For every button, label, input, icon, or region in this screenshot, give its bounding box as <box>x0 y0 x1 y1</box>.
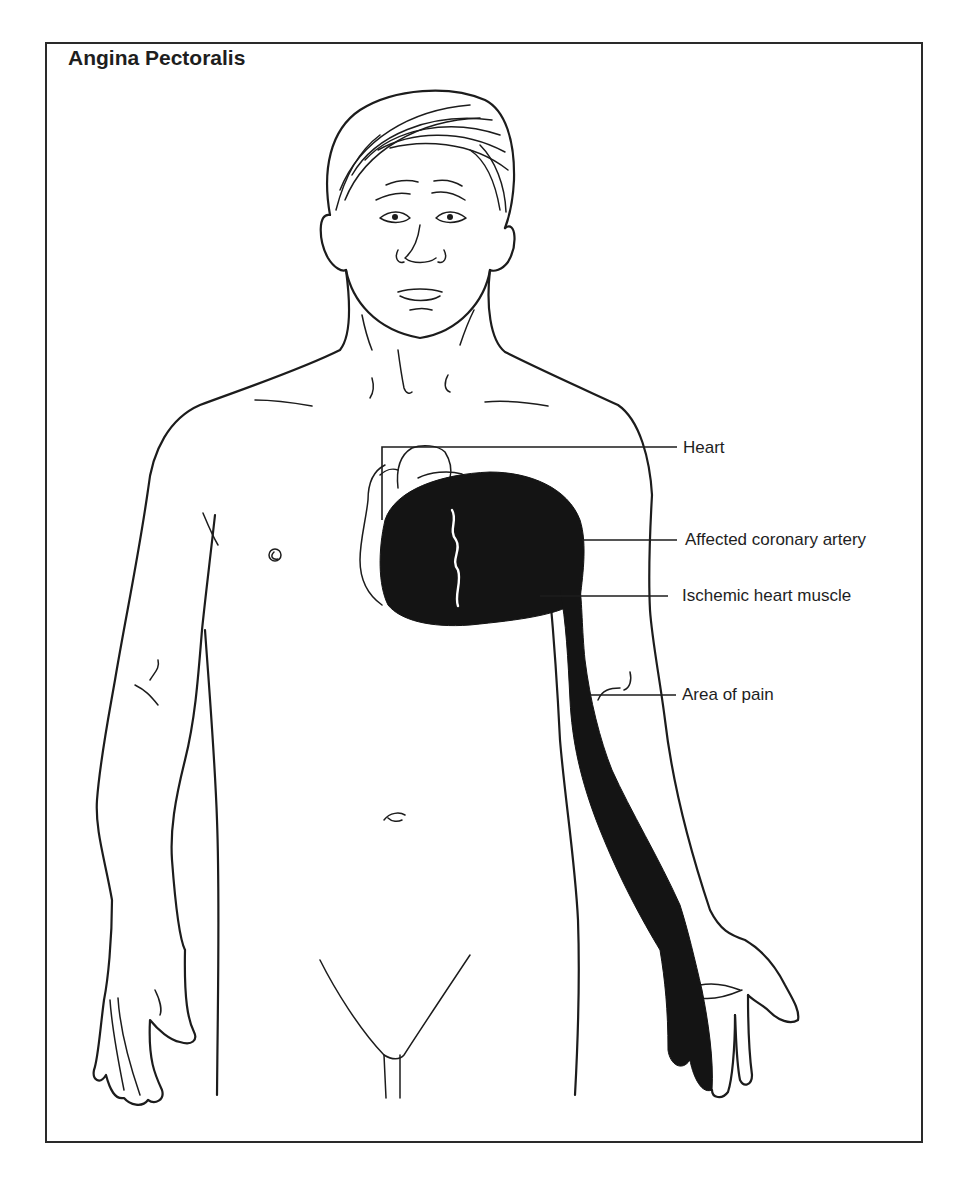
label-heart: Heart <box>683 439 725 456</box>
label-affected-coronary-artery: Affected coronary artery <box>685 531 866 548</box>
label-ischemic-heart-muscle: Ischemic heart muscle <box>682 587 851 604</box>
label-area-of-pain: Area of pain <box>682 686 774 703</box>
heart-illustration <box>360 446 584 626</box>
